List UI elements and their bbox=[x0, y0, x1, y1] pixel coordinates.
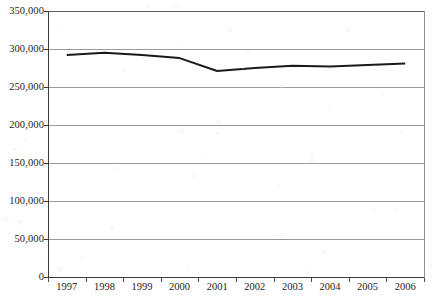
x-tick-mark-10 bbox=[424, 278, 425, 282]
x-tick-mark-5 bbox=[236, 278, 237, 282]
x-tick-mark-8 bbox=[349, 278, 350, 282]
y-tick-label-150000: 150,000 bbox=[0, 158, 44, 168]
y-tick-label-100000: 100,000 bbox=[0, 196, 44, 206]
noise-speck bbox=[146, 4, 151, 9]
x-tick-mark-1 bbox=[86, 278, 87, 282]
y-tick-label-200000: 200,000 bbox=[0, 120, 44, 130]
noise-speck bbox=[428, 126, 430, 128]
y-tick-label-50000: 50,000 bbox=[0, 234, 44, 244]
y-tick-mark-200000 bbox=[44, 125, 49, 126]
y-tick-mark-250000 bbox=[44, 87, 49, 88]
data-line-total bbox=[67, 53, 405, 71]
x-tick-label-2004: 2004 bbox=[320, 281, 341, 293]
y-tick-mark-350000 bbox=[44, 11, 49, 12]
chart-title bbox=[0, 0, 437, 2]
x-tick-label-2003: 2003 bbox=[282, 281, 303, 293]
x-tick-label-2005: 2005 bbox=[357, 281, 378, 293]
plot-area bbox=[48, 11, 424, 277]
y-tick-mark-100000 bbox=[44, 201, 49, 202]
x-tick-mark-7 bbox=[311, 278, 312, 282]
y-tick-mark-50000 bbox=[44, 239, 49, 240]
y-tick-label-250000: 250,000 bbox=[0, 82, 44, 92]
x-tick-label-2002: 2002 bbox=[244, 281, 265, 293]
y-tick-label-300000: 300,000 bbox=[0, 44, 44, 54]
y-tick-mark-150000 bbox=[44, 163, 49, 164]
x-tick-mark-9 bbox=[386, 278, 387, 282]
x-tick-label-2006: 2006 bbox=[395, 281, 416, 293]
series-line-total bbox=[48, 11, 424, 277]
x-tick-label-1997: 1997 bbox=[56, 281, 77, 293]
x-tick-mark-4 bbox=[198, 278, 199, 282]
x-tick-mark-6 bbox=[274, 278, 275, 282]
x-tick-label-2001: 2001 bbox=[207, 281, 228, 293]
noise-speck bbox=[173, 4, 179, 10]
y-axis-tick-labels: 050,000100,000150,000200,000250,000300,0… bbox=[0, 0, 44, 297]
x-tick-label-2000: 2000 bbox=[169, 281, 190, 293]
y-axis-spine bbox=[48, 11, 49, 278]
x-axis-tick-labels: 1997199819992000200120022003200420052006 bbox=[0, 281, 437, 297]
x-tick-mark-2 bbox=[123, 278, 124, 282]
x-tick-mark-0 bbox=[48, 278, 49, 282]
plot-right-border bbox=[424, 11, 425, 278]
x-tick-label-1998: 1998 bbox=[94, 281, 115, 293]
y-tick-label-350000: 350,000 bbox=[0, 6, 44, 16]
y-tick-mark-300000 bbox=[44, 49, 49, 50]
x-tick-label-1999: 1999 bbox=[132, 281, 153, 293]
x-tick-mark-3 bbox=[161, 278, 162, 282]
noise-speck bbox=[428, 263, 433, 268]
line-chart: 050,000100,000150,000200,000250,000300,0… bbox=[0, 0, 437, 297]
